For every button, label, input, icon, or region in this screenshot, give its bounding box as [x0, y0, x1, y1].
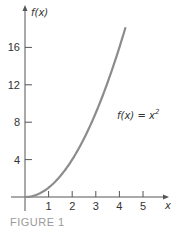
- y-tick-label: 8: [14, 116, 20, 128]
- x-tick-label: 4: [116, 200, 122, 212]
- y-tick-label: 4: [14, 154, 20, 166]
- x-axis-arrow: [163, 195, 169, 200]
- y-tick-label: 12: [8, 79, 20, 91]
- x-tick-label: 5: [140, 200, 146, 212]
- x-tick-label: 3: [93, 200, 99, 212]
- y-tick-label: 16: [8, 41, 20, 53]
- figure-caption: FIGURE 1: [10, 216, 65, 228]
- x-tick-label: 2: [69, 200, 75, 212]
- x-tick-label: 1: [46, 200, 52, 212]
- x-axis-label: x: [164, 200, 171, 211]
- y-axis-arrow: [23, 5, 28, 11]
- series-line-f-x-equals-x-squared: [25, 28, 125, 197]
- annotation-main: f(x) = x: [117, 110, 155, 121]
- curve-annotation: f(x) = x2: [117, 108, 160, 121]
- ticks: 12345481216: [8, 41, 146, 212]
- axes: [11, 5, 169, 211]
- curve-layer: [25, 28, 125, 197]
- annotation-superscript: 2: [155, 108, 160, 116]
- y-axis-label: f(x): [31, 7, 48, 18]
- chart: 12345481216 f(x) x f(x) = x2 FIGURE 1: [0, 0, 190, 230]
